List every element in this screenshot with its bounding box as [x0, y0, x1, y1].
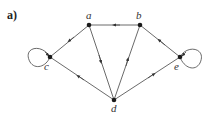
self-loop-e [180, 49, 201, 68]
node-label-e: e [174, 60, 179, 72]
node-label-a: a [86, 9, 92, 21]
arrow-icon [78, 76, 84, 80]
panel-label: a) [7, 8, 17, 22]
arrow-icon [69, 37, 74, 41]
node-label-d: d [111, 102, 117, 114]
arrow-icon [159, 40, 165, 45]
edge-a-c [50, 25, 89, 57]
arrow-icon [148, 74, 154, 78]
node-b [138, 23, 143, 28]
node-a [87, 23, 92, 28]
node-e [178, 55, 183, 60]
edge-d-b [114, 25, 140, 100]
arrow-icon [99, 55, 101, 62]
directed-graph: a) a b c d e [0, 0, 209, 114]
edge-d-e [114, 57, 180, 100]
edge-e-b [140, 25, 180, 57]
edge-d-c [50, 57, 114, 100]
node-label-c: c [44, 60, 49, 72]
node-label-b: b [136, 9, 142, 21]
arrow-icon [126, 59, 128, 66]
edge-a-d [89, 25, 114, 100]
node-c [48, 55, 53, 60]
